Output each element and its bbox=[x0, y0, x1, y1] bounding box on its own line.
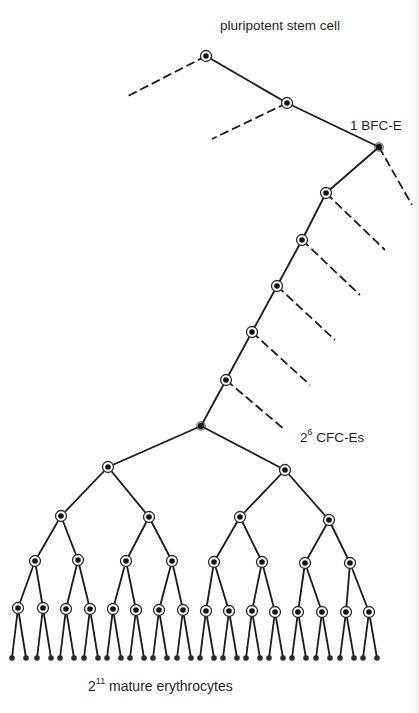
erythrocyte-dot-icon bbox=[243, 655, 249, 661]
progenitor-cell-icon bbox=[56, 511, 67, 522]
branch-line bbox=[262, 562, 275, 612]
progenitor-cell-icon bbox=[270, 607, 281, 618]
bfc-progeny-cell-icon bbox=[221, 375, 232, 386]
erythrocyte-dot-icon bbox=[374, 655, 380, 661]
erythrocyte-dot-icon bbox=[141, 655, 147, 661]
branch-line bbox=[223, 611, 229, 658]
branch-line bbox=[285, 470, 329, 520]
branch-line bbox=[214, 517, 240, 562]
progenitor-cell-icon bbox=[201, 606, 212, 617]
erythropoiesis-lineage-tree bbox=[0, 0, 419, 713]
branch-line bbox=[108, 426, 201, 467]
ery-name: mature erythrocytes bbox=[109, 678, 233, 694]
branch-line bbox=[12, 608, 18, 658]
branch-line bbox=[240, 470, 285, 517]
progenitor-cell-icon bbox=[280, 465, 291, 476]
branch-line bbox=[136, 610, 144, 658]
progenitor-cell-icon bbox=[131, 605, 142, 616]
branch-line bbox=[200, 611, 206, 658]
erythrocyte-dot-icon bbox=[280, 655, 286, 661]
erythrocyte-dot-icon bbox=[164, 655, 170, 661]
branch-line bbox=[252, 611, 260, 658]
erythrocyte-dot-icon bbox=[23, 655, 29, 661]
branch-line bbox=[66, 560, 78, 609]
erythrocyte-dot-icon bbox=[81, 655, 87, 661]
erythrocyte-dot-icon bbox=[34, 655, 40, 661]
bfc-e-cell-icon bbox=[374, 142, 384, 152]
branch-line bbox=[130, 610, 136, 658]
erythrocyte-dot-icon bbox=[327, 655, 333, 661]
branch-line bbox=[329, 520, 350, 563]
erythrocyte-dot-icon bbox=[337, 655, 343, 661]
branch-line bbox=[78, 560, 90, 609]
progenitor-cell-icon bbox=[38, 603, 49, 614]
branch-line bbox=[246, 611, 252, 658]
branch-line bbox=[305, 563, 322, 612]
erythrocyte-dot-icon bbox=[118, 655, 124, 661]
bfc-progeny-cell-icon bbox=[297, 235, 308, 246]
branch-line bbox=[90, 609, 98, 658]
branch-line bbox=[326, 147, 379, 193]
branch-line bbox=[149, 517, 172, 561]
branch-line bbox=[206, 56, 287, 103]
erythrocyte-dot-icon bbox=[211, 655, 217, 661]
progenitor-cell-icon bbox=[235, 512, 246, 523]
cfc-name: CFC-Es bbox=[316, 430, 364, 445]
branch-line bbox=[240, 517, 262, 562]
bfc-e-label: 1 BFC-E bbox=[350, 118, 402, 134]
progenitor-cell-icon bbox=[108, 604, 119, 615]
cfc-exponent: 6 bbox=[308, 427, 313, 437]
progenitor-cell-icon bbox=[257, 557, 268, 568]
page-edge-shadow bbox=[409, 0, 419, 713]
progenitor-cell-icon bbox=[61, 604, 72, 615]
progenitor-cell-icon bbox=[324, 515, 335, 526]
branch-line bbox=[206, 611, 214, 658]
progenitor-cell-icon bbox=[247, 606, 258, 617]
stem-self-renewal-dashed bbox=[128, 56, 206, 96]
branch-line bbox=[61, 516, 78, 560]
branch-line bbox=[37, 608, 43, 658]
erythrocyte-dot-icon bbox=[266, 655, 272, 661]
branch-line bbox=[66, 609, 74, 658]
branch-line bbox=[275, 612, 283, 658]
pluripotent-stem-cell-label: pluripotent stem cell bbox=[220, 18, 350, 34]
progenitor-cell-icon bbox=[209, 557, 220, 568]
erythrocyte-dot-icon bbox=[57, 655, 63, 661]
progenitor-cell-icon bbox=[154, 605, 165, 616]
erythrocyte-dot-icon bbox=[95, 655, 101, 661]
erythrocyte-dot-icon bbox=[303, 655, 309, 661]
progenitor-cell-icon bbox=[364, 607, 375, 618]
erythrocyte-dot-icon bbox=[71, 655, 77, 661]
branch-line bbox=[172, 561, 183, 610]
dashed-branch bbox=[226, 380, 285, 430]
pluripotent-stem-cell-icon bbox=[201, 51, 212, 62]
bfc-progeny-cell-icon bbox=[247, 327, 258, 338]
progenitor-cell-icon bbox=[85, 604, 96, 615]
branch-line bbox=[206, 562, 214, 611]
dashed-branch bbox=[277, 286, 335, 340]
bfc-progeny-cell-icon bbox=[321, 188, 332, 199]
branch-line bbox=[298, 563, 305, 612]
bfc-name: BFC-E bbox=[361, 118, 402, 133]
branch-line bbox=[277, 240, 302, 286]
tree-nodes bbox=[9, 51, 384, 661]
ery-exponent: 11 bbox=[96, 676, 105, 686]
branch-line bbox=[269, 612, 275, 658]
branch-line bbox=[153, 610, 159, 658]
branch-line bbox=[214, 562, 229, 611]
dashed-branch bbox=[302, 240, 360, 295]
cfc-base: 2 bbox=[300, 430, 308, 445]
bfc-count: 1 bbox=[350, 118, 358, 133]
branch-line bbox=[159, 561, 172, 610]
branch-line bbox=[316, 612, 322, 658]
branch-line bbox=[35, 516, 61, 561]
branch-line bbox=[302, 193, 326, 240]
branch-line bbox=[322, 612, 330, 658]
branch-line bbox=[108, 467, 149, 517]
progenitor-cell-icon bbox=[13, 603, 24, 614]
branch-line bbox=[350, 563, 369, 612]
progenitor-cell-icon bbox=[293, 607, 304, 618]
progenitor-cell-icon bbox=[300, 558, 311, 569]
branch-line bbox=[177, 610, 183, 658]
erythrocyte-dot-icon bbox=[188, 655, 194, 661]
